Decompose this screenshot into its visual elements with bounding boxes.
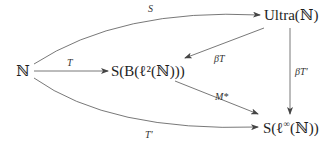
edge-label-betaT: βT xyxy=(214,54,225,64)
edge-label-Tprime: T′ xyxy=(145,130,153,140)
edge-label-T: T xyxy=(67,58,73,68)
arrow-Tprime xyxy=(34,78,258,127)
node-linfinity-prefix: S(ℓ xyxy=(263,120,284,136)
node-state-space-linfinity: S(ℓ∞(ℕ)) xyxy=(263,120,319,136)
node-linfinity-suffix: (ℕ)) xyxy=(290,120,319,136)
edge-label-S: S xyxy=(148,4,153,14)
edge-label-Mstar: M* xyxy=(215,92,228,102)
node-state-space-bounded-operators: S(B(ℓ²(ℕ))) xyxy=(111,64,185,79)
node-naturals: ℕ xyxy=(16,64,30,79)
node-ultrafilters: Ultra(ℕ) xyxy=(264,8,319,23)
edge-label-betaTprime: βT′ xyxy=(295,67,308,77)
